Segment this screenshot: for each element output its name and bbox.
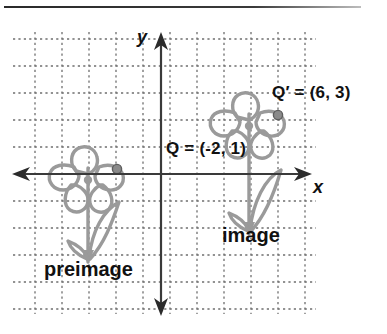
top-divider-rule	[4, 6, 361, 8]
point-q-marker	[112, 164, 121, 173]
preimage-label: preimage	[44, 259, 133, 279]
point-q-label: Q = (-2, 1)	[166, 140, 246, 157]
image-center-dot	[245, 122, 253, 130]
image-petal-lower-right	[251, 131, 273, 158]
preimage-petal-lower-left	[65, 185, 88, 212]
figure-container: Q = (-2, 1) Q′ = (6, 3) preimage image x…	[0, 0, 387, 334]
image-label: image	[222, 225, 280, 245]
point-q-prime-marker	[273, 110, 282, 119]
image-leaf-right	[250, 170, 281, 231]
point-q-prime-label: Q′ = (6, 3)	[272, 84, 351, 101]
preimage-center-dot	[84, 176, 92, 184]
x-axis-label: x	[313, 178, 323, 196]
preimage-flower	[49, 147, 123, 264]
y-axis-label: y	[137, 28, 147, 46]
preimage-petal-lower-right	[90, 185, 112, 212]
